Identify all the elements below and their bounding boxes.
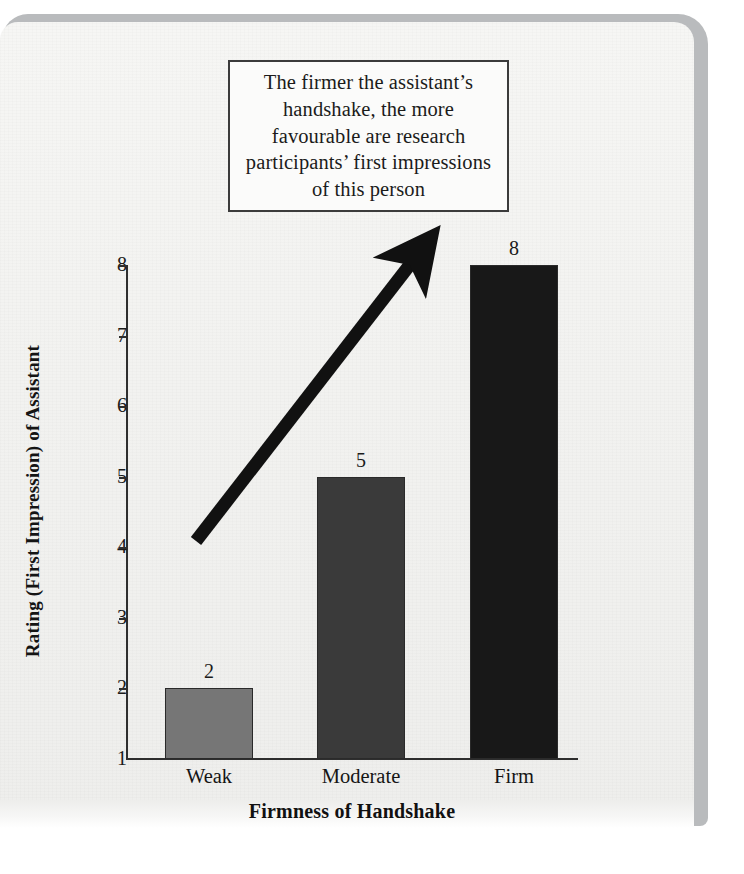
callout-text: The firmer the assistant’s handshake, th… — [230, 69, 507, 202]
page-bottom-edge — [0, 800, 694, 828]
callout-box: The firmer the assistant’s handshake, th… — [228, 60, 509, 212]
scanned-page: The firmer the assistant’s handshake, th… — [0, 0, 744, 874]
